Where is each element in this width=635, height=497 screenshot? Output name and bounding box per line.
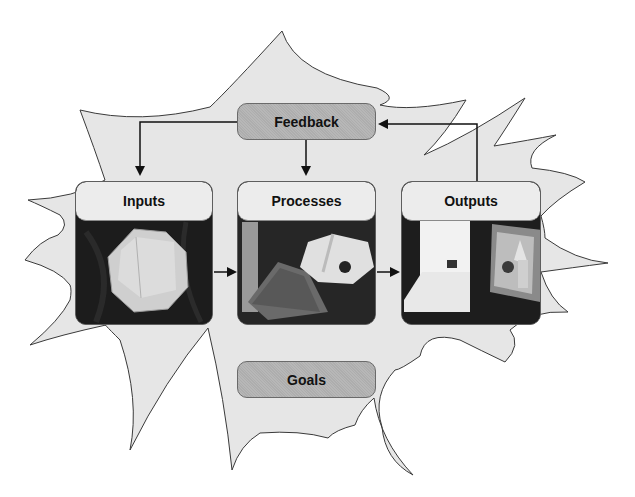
outputs-label: Outputs — [444, 193, 498, 209]
outputs-node: Outputs — [401, 181, 541, 325]
outputs-photo — [402, 212, 540, 324]
inputs-header: Inputs — [76, 182, 212, 221]
processes-photo — [238, 212, 375, 324]
systems-diagram: Feedback Inputs Processes — [0, 0, 635, 497]
processes-node: Processes — [237, 181, 376, 325]
feedback-node: Feedback — [237, 103, 376, 140]
processes-header: Processes — [238, 182, 375, 221]
inputs-photo — [76, 212, 212, 324]
goals-label: Goals — [287, 372, 326, 388]
feedback-label: Feedback — [274, 114, 339, 130]
processes-label: Processes — [271, 193, 341, 209]
inputs-label: Inputs — [123, 193, 165, 209]
inputs-node: Inputs — [75, 181, 213, 325]
outputs-header: Outputs — [402, 182, 540, 221]
goals-node: Goals — [237, 361, 376, 398]
